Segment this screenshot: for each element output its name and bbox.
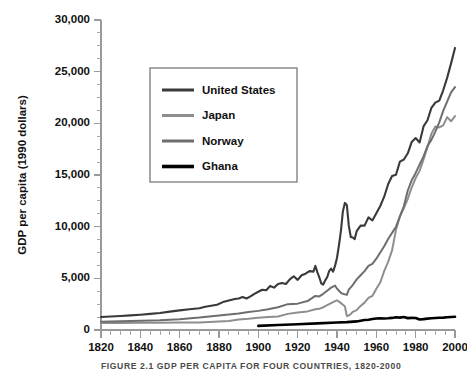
x-axis-tick-label: 1920 — [285, 341, 311, 353]
x-axis-tick-label: 1940 — [324, 341, 350, 353]
y-axis-title: GDP per capita (1990 dollars) — [16, 95, 28, 255]
figure-caption: FIGURE 2.1 GDP PER CAPITA FOR FOUR COUNT… — [101, 361, 401, 371]
x-axis-tick-label: 1860 — [167, 341, 193, 353]
y-axis-tick-label: 20,000 — [55, 116, 90, 128]
legend-label: United States — [202, 84, 276, 96]
y-axis-tick-label: 25,000 — [55, 65, 90, 77]
x-axis-tick-label: 1980 — [403, 341, 429, 353]
legend-label: Norway — [202, 135, 244, 147]
y-axis-tick-label: 5,000 — [61, 271, 90, 283]
legend-label: Japan — [202, 109, 235, 121]
x-axis-tick-label: 1960 — [364, 341, 390, 353]
figure-container: United StatesJapanNorwayGhana 05,00010,0… — [0, 0, 467, 371]
plot-background — [0, 0, 467, 371]
x-axis-tick-label: 1880 — [206, 341, 232, 353]
legend-label: Ghana — [202, 160, 238, 172]
y-axis-tick-label: 15,000 — [55, 168, 90, 180]
x-axis-tick-label: 2000 — [442, 341, 467, 353]
x-axis-tick-label: 1840 — [128, 341, 154, 353]
y-axis-tick-label: 10,000 — [55, 220, 90, 232]
x-axis-tick-label: 1900 — [246, 341, 272, 353]
y-axis-tick-label: 30,000 — [55, 13, 90, 25]
gdp-per-capita-line-chart: United StatesJapanNorwayGhana 05,00010,0… — [0, 0, 467, 371]
chart-legend[interactable]: United StatesJapanNorwayGhana — [150, 68, 297, 182]
x-axis-tick-label: 1820 — [88, 341, 114, 353]
figure-caption-text: FIGURE 2.1 GDP PER CAPITA FOR FOUR COUNT… — [101, 361, 401, 371]
y-axis-tick-label: 0 — [84, 323, 90, 335]
